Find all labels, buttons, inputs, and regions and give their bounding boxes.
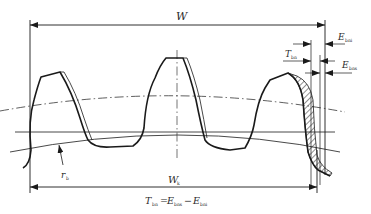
svg-text:bns: bns	[174, 202, 183, 207]
svg-text:−: −	[184, 195, 192, 206]
label-E-bni-sub: bni	[345, 38, 353, 43]
gear-profile	[23, 58, 330, 176]
dimension-T-bn: T bn	[283, 49, 335, 61]
svg-text:E: E	[166, 195, 174, 206]
formula: T bn = E bns − E bni	[145, 195, 208, 207]
label-E-bni: E	[337, 32, 345, 42]
label-r-b-sub: b	[66, 176, 69, 181]
svg-text:bn: bn	[152, 202, 158, 207]
label-E-bns-sub: bns	[349, 66, 358, 71]
svg-text:E: E	[192, 195, 200, 206]
label-W-k-sub: k	[177, 181, 180, 186]
svg-text:bni: bni	[200, 202, 208, 207]
gear-tolerance-diagram: W E bni T bn E bns r b	[0, 0, 371, 214]
dimension-W: W	[30, 10, 325, 25]
dimension-E-bns: E bns	[305, 60, 358, 73]
label-E-bns: E	[341, 60, 349, 70]
dimension-W-k: W k	[30, 174, 317, 187]
svg-text:T: T	[145, 195, 152, 206]
extension-lines	[30, 20, 325, 193]
dimension-E-bni: E bni	[293, 32, 353, 44]
label-W: W	[176, 10, 189, 23]
label-T-bn-sub: bn	[291, 55, 297, 60]
pitch-circle	[0, 96, 345, 112]
label-r-b-group: r b	[59, 145, 69, 181]
